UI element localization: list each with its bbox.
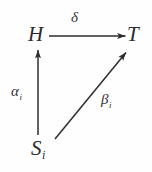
arrow-label-beta-symbol: β	[101, 91, 108, 107]
arrow-beta-i	[55, 53, 126, 140]
arrow-label-beta-i: βi	[101, 92, 111, 107]
arrow-label-beta-subscript: i	[109, 100, 112, 110]
arrow-label-delta: δ	[71, 10, 78, 25]
node-s-i: Si	[31, 138, 45, 159]
node-h: H	[28, 24, 43, 45]
arrow-label-alpha-i: αi	[11, 84, 21, 99]
commutative-diagram: H T Si δ αi βi	[0, 0, 152, 172]
node-s-label: S	[31, 136, 42, 160]
node-h-label: H	[28, 22, 43, 46]
arrow-label-alpha-symbol: α	[11, 83, 19, 99]
arrow-label-alpha-subscript: i	[19, 92, 22, 102]
arrow-label-delta-symbol: δ	[71, 9, 78, 25]
node-t-label: T	[127, 22, 139, 46]
node-s-subscript: i	[42, 148, 45, 162]
node-t: T	[127, 24, 139, 45]
